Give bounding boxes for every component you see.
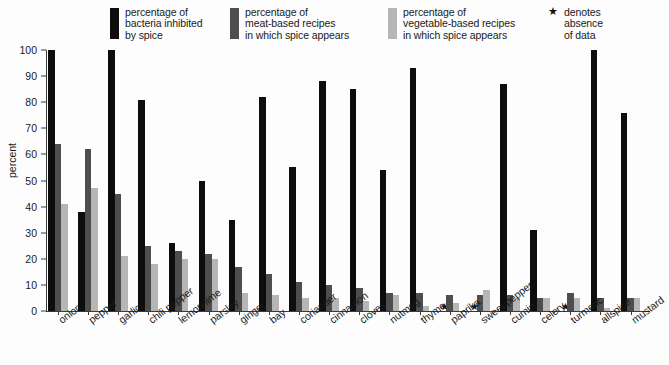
bar-nutmeg-series-0 (380, 170, 387, 311)
x-tick-mark-10 (359, 311, 360, 315)
bar-pepper-series-2 (91, 188, 98, 311)
x-tick-mark-14 (480, 311, 481, 315)
y-tick-mark-30 (41, 232, 46, 233)
y-tick-mark-50 (41, 180, 46, 181)
x-tick-mark-3 (148, 311, 149, 315)
y-tick-mark-70 (41, 128, 46, 129)
x-tick-mark-13 (450, 311, 451, 315)
bar-group-cloves (350, 89, 370, 311)
bar-group-nutmeg (380, 170, 400, 311)
x-tick-mark-4 (178, 311, 179, 315)
x-tick-mark-9 (329, 311, 330, 315)
x-tick-mark-16 (540, 311, 541, 315)
bar-group-cinnamon (319, 81, 339, 311)
x-tick-mark-19 (631, 311, 632, 315)
bar-group-pepper (78, 149, 98, 311)
bar-allspice-series-0 (591, 50, 598, 311)
bar-group-cumin (500, 84, 520, 311)
x-tick-mark-2 (118, 311, 119, 315)
x-tick-mark-5 (209, 311, 210, 315)
y-axis-label: percent (6, 143, 18, 178)
y-tick-mark-10 (41, 284, 46, 285)
x-tick-mark-8 (299, 311, 300, 315)
y-tick-mark-40 (41, 206, 46, 207)
bar-group-mustard (621, 113, 641, 311)
bacteria-inhibition-bar-chart: percentage of bacteria inhibited by spic… (0, 0, 669, 365)
bar-group-thyme (410, 68, 430, 311)
x-tick-mark-15 (510, 311, 511, 315)
x-tick-mark-7 (269, 311, 270, 315)
y-tick-mark-90 (41, 76, 46, 77)
x-tick-mark-0 (58, 311, 59, 315)
x-tick-mark-1 (88, 311, 89, 315)
y-tick-mark-80 (41, 102, 46, 103)
bar-cinnamon-series-0 (319, 81, 326, 311)
bar-group-garlic (108, 50, 128, 311)
bar-group-bay (259, 97, 279, 311)
bar-group-onion (48, 50, 68, 311)
x-tick-mark-11 (389, 311, 390, 315)
bar-cumin-series-0 (500, 84, 507, 311)
plot-area: 0102030405060708090100★★★ (46, 50, 649, 311)
bar-group-chili-pepper (138, 100, 158, 311)
bar-onion-series-2 (61, 204, 68, 311)
y-tick-mark-60 (41, 154, 46, 155)
y-tick-mark-20 (41, 258, 46, 259)
x-tick-mark-18 (600, 311, 601, 315)
bar-group-coriander (289, 167, 309, 311)
x-tick-mark-12 (420, 311, 421, 315)
x-axis-labels: onionpeppergarlicchili pepperlemon/limep… (0, 0, 669, 54)
bar-mustard-series-0 (621, 113, 628, 311)
bar-group-celery (530, 230, 550, 311)
bar-thyme-series-0 (410, 68, 417, 311)
bar-cloves-series-0 (350, 89, 357, 311)
x-tick-mark-17 (570, 311, 571, 315)
x-tick-mark-6 (239, 311, 240, 315)
bar-garlic-series-2 (121, 256, 128, 311)
bar-chili-pepper-series-2 (151, 264, 158, 311)
y-tick-mark-0 (41, 311, 46, 312)
bar-group-allspice (591, 50, 611, 311)
